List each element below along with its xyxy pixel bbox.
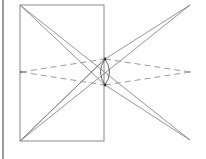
rectangle: [20, 5, 104, 141]
dashed-right-to-upper-node: [105, 59, 190, 72]
dashed-left-to-lower-node: [21, 72, 105, 85]
dashed-right-to-lower-node: [105, 72, 190, 85]
lower-node: [104, 84, 107, 87]
right-focal-point: [189, 71, 191, 73]
ray-topright-to-upper-node: [105, 5, 190, 59]
upper-node: [104, 58, 107, 61]
left-focal-point: [20, 71, 22, 73]
dashed-left-to-upper-node: [21, 59, 105, 72]
ray-bottomright-to-lower-node: [105, 85, 190, 140]
ray-upper-node-to-bottomleft-ext: [20, 59, 105, 141]
ray-topleft-to-lower-node: [20, 5, 105, 85]
geometry-diagram: [0, 0, 206, 159]
